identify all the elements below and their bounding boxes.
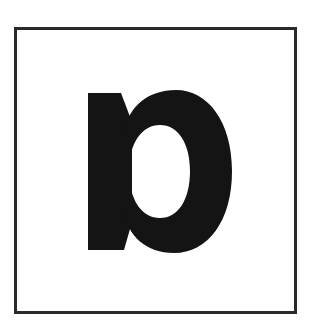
glyph-bowl bbox=[124, 90, 232, 253]
letter-p-glyph-icon bbox=[0, 0, 314, 332]
